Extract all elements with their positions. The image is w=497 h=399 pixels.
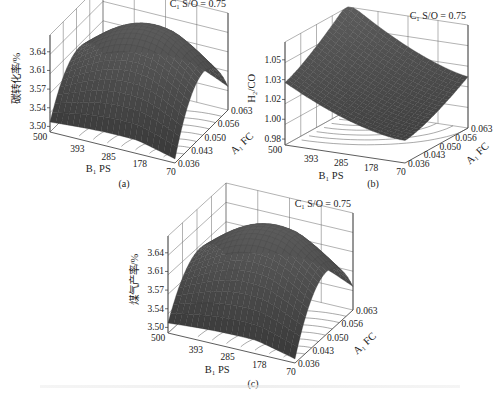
y-tick-label: 0.050 [327,333,349,343]
x-axis-label: B₁ PS [86,163,111,174]
x-tick-label: 70 [166,167,176,177]
y-tick-label: 0.050 [440,142,462,152]
y-tick-label: 0.036 [408,159,430,169]
condition-label: C₁ S/O = 0.75 [295,198,351,209]
y-tick-label: 0.056 [455,133,477,143]
surface-plot-c: 3.503.543.573.613.64煤气产率/%50039328517870… [120,200,380,380]
y-tick-label: 0.036 [178,159,200,169]
z-tick-label: 3.64 [29,47,46,57]
y-tick-label: 0.056 [342,319,364,329]
y-tick-label: 0.063 [356,306,378,316]
z-axis-label: 煤气产率/% [128,254,140,306]
z-tick-label: 1.05 [264,55,281,65]
figure-caption-faint [40,385,460,388]
z-tick-label: 3.54 [147,304,164,314]
z-tick-label: 1.03 [264,75,281,85]
x-axis-label: B₁ PS [319,170,344,181]
x-tick-label: 285 [101,152,116,162]
z-tick-label: 3.61 [147,266,164,276]
y-tick-label: 0.043 [424,150,446,160]
x-tick-label: 500 [33,132,48,142]
surface-plot-b: 0.981.001.021.031.05H₂/CO50039328517870B… [240,0,497,200]
x-axis-label: B₁ PS [205,364,230,375]
y-tick-label: 0.063 [471,124,493,134]
y-axis-label: A₁ FC [464,140,491,166]
z-tick-label: 0.98 [264,134,281,144]
y-tick-label: 0.050 [205,133,227,143]
z-tick-label: 3.54 [29,103,46,113]
condition-label: C₁ S/O = 0.75 [410,10,466,21]
y-axis-label: A₁ FC [351,330,378,356]
x-tick-label: 393 [304,154,319,164]
y-tick-label: 0.036 [298,359,320,369]
surface-mesh [285,7,468,141]
x-tick-label: 70 [396,167,406,177]
x-tick-label: 393 [70,144,85,154]
x-tick-label: 178 [364,163,379,173]
x-tick-label: 178 [133,159,148,169]
caption-b: (b) [358,178,388,189]
z-axis-label: 碳转化率/% [10,53,22,105]
y-tick-label: 0.043 [313,346,335,356]
z-axis-label: H₂/CO [246,74,257,103]
x-tick-label: 285 [334,158,349,168]
z-tick-label: 3.50 [147,322,164,332]
x-tick-label: 500 [151,333,166,343]
plot-svg-c: 3.503.543.573.613.64煤气产率/%50039328517870… [120,200,380,380]
z-tick-label: 3.57 [29,84,46,94]
x-tick-label: 393 [189,345,204,355]
z-tick-label: 3.64 [147,248,164,258]
z-tick-label: 1.00 [264,114,281,124]
z-tick-label: 1.02 [264,94,281,104]
condition-label: C₁ S/O = 0.75 [170,0,226,9]
plot-svg-a: 3.503.543.573.613.64碳转化率/%50039328517870… [0,0,250,200]
x-tick-label: 285 [220,352,235,362]
x-tick-label: 178 [252,360,267,370]
plot-svg-b: 0.981.001.021.031.05H₂/CO50039328517870B… [240,0,497,200]
x-tick-label: 500 [268,145,283,155]
x-tick-label: 70 [286,367,296,377]
surface-mesh [168,224,353,359]
y-tick-label: 0.056 [218,119,240,129]
z-tick-label: 3.61 [29,65,46,75]
y-tick-label: 0.043 [191,146,213,156]
z-tick-label: 3.57 [147,285,164,295]
caption-a: (a) [109,178,139,189]
z-tick-label: 3.50 [29,121,46,131]
surface-plot-a: 3.503.543.573.613.64碳转化率/%50039328517870… [0,0,250,200]
